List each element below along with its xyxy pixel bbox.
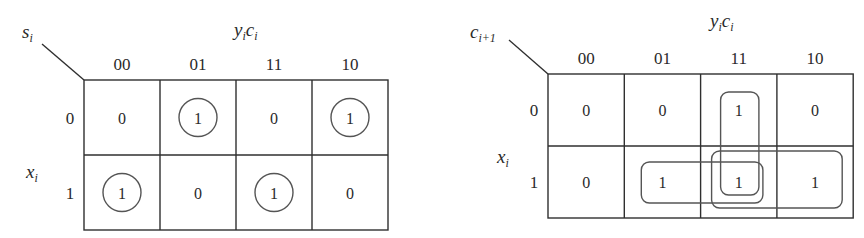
output-var-label-base: s [22, 21, 29, 42]
row-label: 1 [66, 184, 75, 203]
cell-value: 1 [194, 110, 202, 127]
corner-diagonal [509, 40, 548, 74]
col-label: 00 [578, 49, 595, 68]
cell-value: 1 [118, 185, 126, 202]
row-var-label-subscript: i [34, 171, 37, 185]
cell-value: 0 [346, 185, 354, 202]
kmap-figure: siyicixi000111100101011010ci+1yicixi0001… [0, 0, 864, 238]
cell-value: 1 [658, 174, 666, 191]
kmap-carry: ci+1yicixi000111100100100111 [470, 10, 853, 218]
col-var-subscript: i [730, 20, 733, 34]
cell-value: 0 [118, 110, 126, 127]
cell-value: 0 [582, 174, 590, 191]
col-label: 10 [342, 55, 359, 74]
col-var-label: yici [708, 10, 734, 34]
cell-value: 1 [811, 174, 819, 191]
row-var-label-subscript: i [505, 156, 508, 170]
col-label: 00 [114, 55, 131, 74]
cell-value: 1 [735, 102, 743, 119]
cell-value: 0 [270, 110, 278, 127]
corner-diagonal [42, 44, 84, 80]
output-var-label: si [22, 21, 33, 45]
col-label: 01 [190, 55, 207, 74]
output-var-label-subscript: i+1 [478, 31, 495, 45]
cell-value: 0 [811, 102, 819, 119]
row-var-label: xi [25, 161, 38, 185]
col-var-label: yici [232, 19, 258, 43]
output-var-label-subscript: i [29, 31, 32, 45]
cell-value: 0 [658, 102, 666, 119]
col-label: 11 [266, 55, 282, 74]
row-var-label: xi [496, 146, 509, 170]
cell-value: 1 [346, 110, 354, 127]
col-label: 01 [654, 49, 671, 68]
row-label: 0 [66, 109, 75, 128]
kmap-sum: siyicixi000111100101011010 [22, 19, 388, 230]
row-label: 0 [530, 101, 539, 120]
col-label: 10 [807, 49, 824, 68]
cell-value: 0 [582, 102, 590, 119]
output-var-label: ci+1 [470, 21, 496, 45]
row-label: 1 [530, 173, 539, 192]
col-var-base: y [708, 10, 719, 31]
cell-value: 0 [194, 185, 202, 202]
cell-value: 1 [270, 185, 278, 202]
cell-value: 1 [735, 174, 743, 191]
col-var-base: y [232, 19, 243, 40]
col-var-subscript: i [254, 29, 257, 43]
col-label: 11 [731, 49, 747, 68]
